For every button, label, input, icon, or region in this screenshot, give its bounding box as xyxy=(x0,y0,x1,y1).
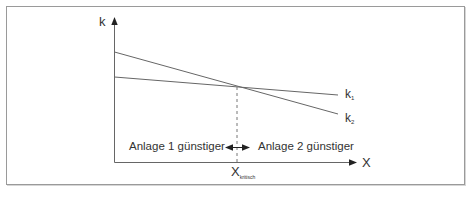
region-label-left: Anlage 1 günstiger xyxy=(129,141,225,153)
curve-label-k1: k1 xyxy=(345,88,354,101)
x-axis-label: X xyxy=(362,156,371,169)
critical-point-label: Xkritisch xyxy=(231,165,255,180)
y-axis-label: k xyxy=(99,15,106,28)
critical-point-label-sub: kritisch xyxy=(240,174,256,180)
curve-k2 xyxy=(115,52,339,114)
curve-label-k1-sub: 1 xyxy=(351,95,354,101)
curve-k1 xyxy=(115,77,339,95)
curve-label-k2: k2 xyxy=(345,112,354,125)
curve-label-k2-sub: 2 xyxy=(351,119,354,125)
critical-point-label-main: X xyxy=(231,164,240,179)
region-label-right: Anlage 2 günstiger xyxy=(258,141,354,153)
